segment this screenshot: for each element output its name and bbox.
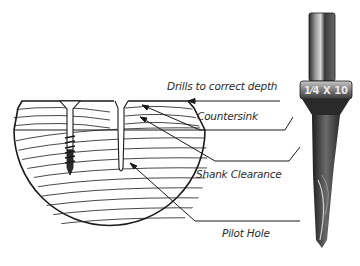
screw: [60, 101, 80, 175]
label-drills-to-correct-depth: Drills to correct depth: [167, 80, 277, 92]
diagram-svg: 1⁄4 X 10: [0, 0, 360, 266]
label-pilot-hole: Pilot Hole: [222, 227, 270, 239]
bit-size-marking: 1⁄4 X 10: [304, 85, 348, 96]
label-countersink: Countersink: [197, 110, 258, 122]
countersink-drill-bit: 1⁄4 X 10: [300, 13, 352, 248]
pilot-hole: [115, 101, 128, 171]
label-shank-clearance: Shank Clearance: [196, 168, 282, 180]
wood-cross-section: [10, 101, 210, 232]
diagram-canvas: 1⁄4 X 10 Drills to correct depth Counter…: [0, 0, 360, 266]
